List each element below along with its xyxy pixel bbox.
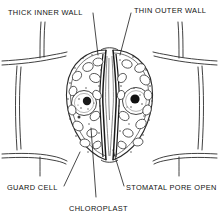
label-guard-cell: GUARD CELL bbox=[7, 183, 58, 192]
nucleolus-right bbox=[130, 94, 139, 103]
label-chloroplast: CHLOROPLAST bbox=[69, 204, 128, 213]
leader-thick-inner-wall bbox=[93, 13, 98, 55]
leader-thin-outer-wall bbox=[120, 13, 131, 55]
label-thin-outer-wall: THIN OUTER WALL bbox=[134, 6, 206, 15]
nucleolus-left bbox=[83, 97, 91, 105]
leader-guard-cell bbox=[64, 152, 80, 186]
stomatal-pore bbox=[106, 56, 114, 156]
label-thick-inner-wall: THICK INNER WALL bbox=[8, 8, 83, 17]
epidermal-cells-right bbox=[153, 22, 217, 176]
diagram-canvas: THICK INNER WALL THIN OUTER WALL GUARD C… bbox=[0, 0, 219, 220]
epidermal-cells-left bbox=[2, 22, 67, 176]
label-stomatal-pore-open: STOMATAL PORE OPEN bbox=[126, 183, 217, 192]
stoma-diagram-figure: THICK INNER WALL THIN OUTER WALL GUARD C… bbox=[0, 0, 219, 220]
